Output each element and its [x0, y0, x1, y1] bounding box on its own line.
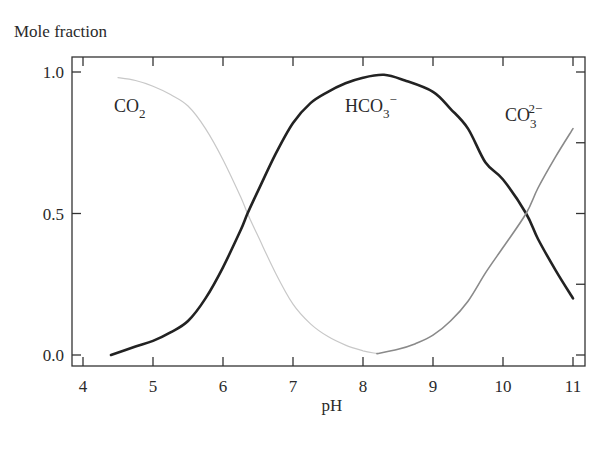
mole-fraction-chart: Mole fraction 45678910110.00.51.0 CO2 HC…: [0, 0, 613, 449]
curve-hco3-: [111, 75, 573, 355]
x-tick-label: 10: [495, 377, 512, 396]
axis-ticks: [72, 57, 585, 366]
label-co2: CO2: [114, 96, 146, 121]
svg-text:HCO3−: HCO3−: [345, 92, 397, 121]
y-tick-label: 0.0: [43, 346, 64, 365]
label-co3: CO32−: [505, 101, 542, 131]
y-tick-label: 0.5: [43, 205, 64, 224]
x-axis-title: pH: [322, 396, 343, 415]
x-tick-label: 4: [79, 377, 88, 396]
x-tick-label: 5: [149, 377, 158, 396]
x-tick-label: 8: [359, 377, 368, 396]
curves: [111, 75, 573, 355]
svg-text:CO2: CO2: [114, 96, 146, 121]
label-hco3: HCO3−: [345, 92, 397, 121]
y-axis-title: Mole fraction: [14, 22, 107, 41]
x-tick-label: 7: [289, 377, 298, 396]
curve-co3-2-: [377, 129, 573, 354]
plot-frame: [72, 57, 585, 366]
svg-text:CO32−: CO32−: [505, 101, 542, 131]
y-tick-label: 1.0: [43, 63, 64, 82]
x-tick-label: 6: [219, 377, 228, 396]
x-tick-label: 11: [565, 377, 581, 396]
x-tick-label: 9: [429, 377, 438, 396]
